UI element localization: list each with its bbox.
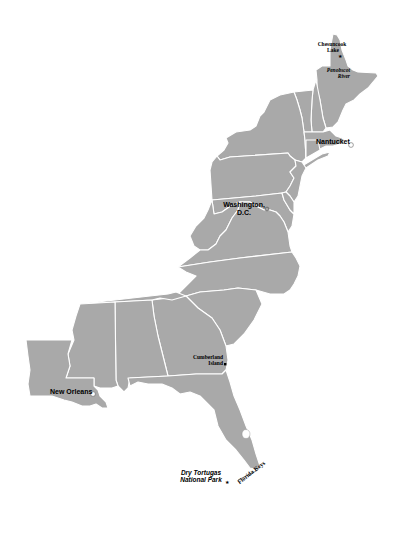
label-cumberland-island: Cumberland Island — [186, 355, 223, 366]
chesuncook-star-icon: ★ — [338, 53, 343, 59]
label-line: D.C. — [222, 209, 266, 216]
state-new-york[interactable] — [217, 92, 306, 162]
state-mississippi[interactable] — [66, 302, 118, 388]
label-line: Washington, — [222, 201, 266, 208]
washington-dc-dot-icon — [266, 208, 267, 209]
label-line: National Park — [176, 477, 226, 484]
label-line: River — [320, 74, 350, 80]
label-line: Lake — [315, 48, 349, 54]
lake-okeechobee — [242, 430, 250, 439]
label-penobscot-river: Penobscot River — [320, 68, 350, 79]
state-florida[interactable] — [128, 370, 260, 470]
label-nantucket: Nantucket — [316, 138, 350, 145]
eastern-us-map: ★ ★ — [0, 0, 411, 545]
label-chesuncook-lake: Chesuncook Lake — [315, 42, 349, 53]
label-washington-dc: Washington, D.C. — [222, 201, 266, 216]
label-text: Nantucket — [316, 138, 350, 145]
label-text: New Orleans — [50, 388, 92, 395]
label-dry-tortugas: Dry Tortugas National Park — [176, 470, 226, 483]
cumberland-square-icon — [224, 363, 226, 365]
label-new-orleans: New Orleans — [50, 388, 92, 395]
label-line: Island — [186, 361, 223, 367]
